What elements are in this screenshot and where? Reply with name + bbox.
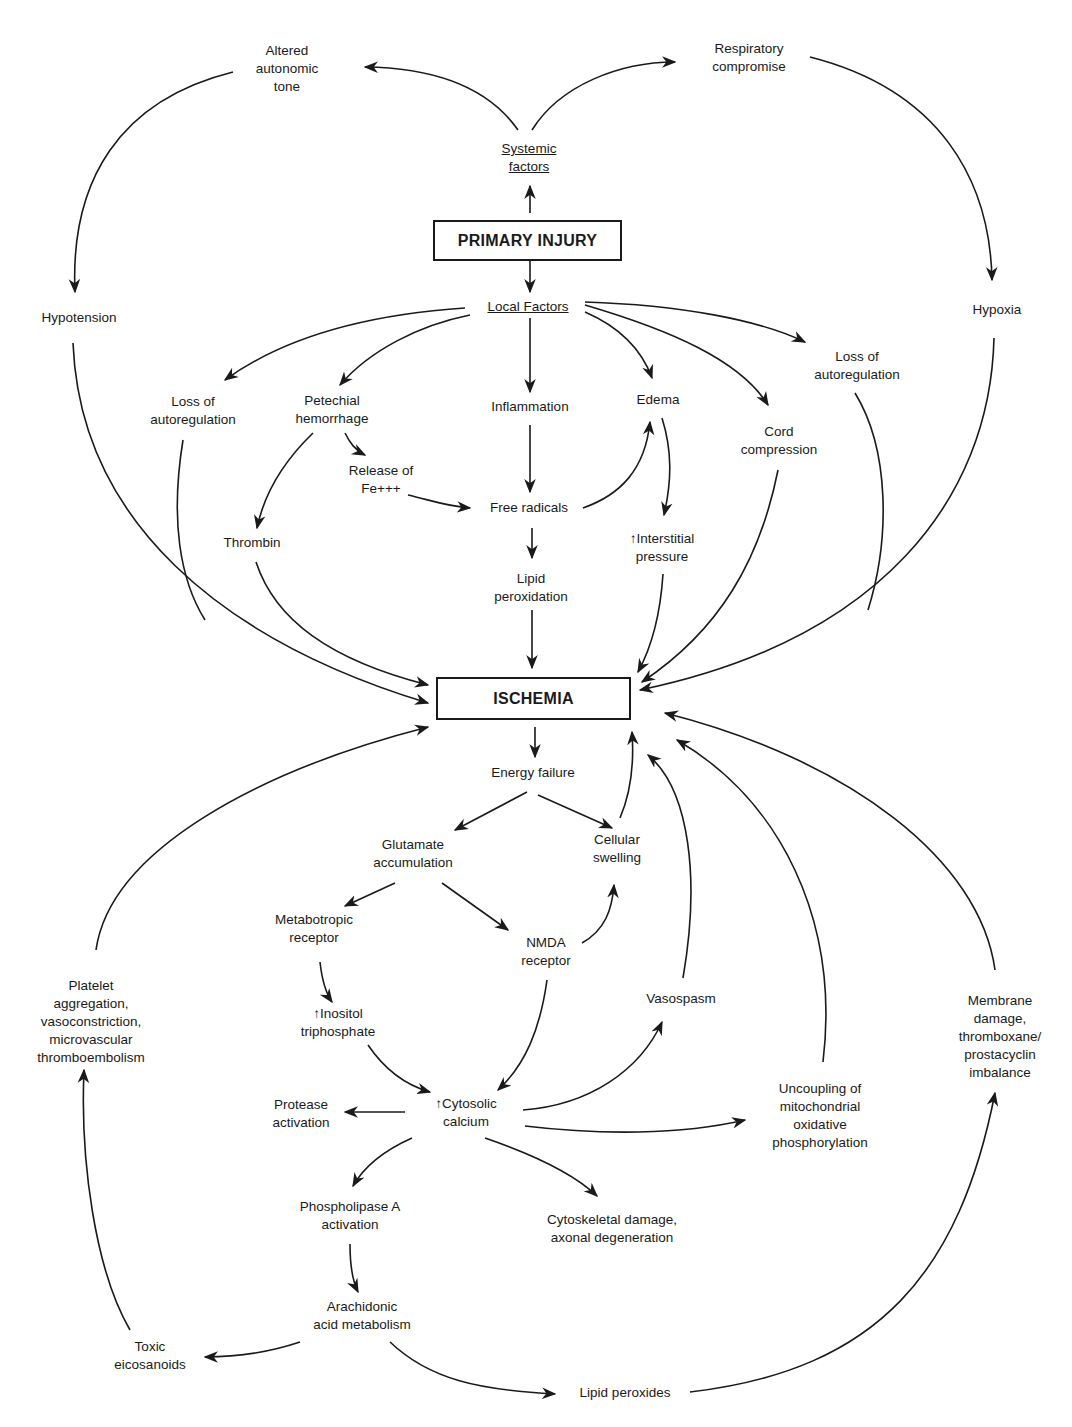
edge-petechial-to-fe (345, 433, 365, 455)
edge-local-to-petechial (340, 315, 470, 385)
node-loss-of-autoregulation-left: Loss ofautoregulation (150, 393, 236, 429)
ischemia-box: ISCHEMIA (436, 677, 631, 720)
node-lipid-peroxides: Lipid peroxides (580, 1384, 671, 1402)
edge-calcium-to-uncoupling (525, 1120, 745, 1132)
node-nmda-receptor: NMDAreceptor (521, 934, 571, 970)
node-inositol-triphosphate: ↑Inositoltriphosphate (301, 1005, 375, 1041)
node-altered-autonomic-tone: Alteredautonomictone (256, 42, 318, 96)
edge-toxic-to-platelet (83, 1070, 130, 1330)
edge-arachidonic-to-toxic (205, 1342, 300, 1357)
node-inflammation: Inflammation (491, 398, 568, 416)
edge-calcium-to-cytoskeletal (485, 1138, 597, 1196)
edge-autonomic-to-hypotension (75, 72, 233, 292)
primary-injury-box: PRIMARY INJURY (433, 220, 622, 261)
edge-thrombin-to-ischemia (256, 562, 428, 685)
edge-lossautoreg-left-to-ischemia (177, 440, 205, 620)
edge-freeradicals-to-edema (583, 422, 650, 508)
edge-inositol-to-calcium (368, 1045, 430, 1092)
node-respiratory-compromise: Respiratorycompromise (712, 40, 786, 76)
edge-calcium-to-phospholipase (353, 1138, 412, 1186)
node-metabotropic-receptor: Metabotropicreceptor (275, 911, 353, 947)
node-local-factors: Local Factors (487, 298, 568, 316)
node-uncoupling: Uncoupling ofmitochondrialoxidativephosp… (772, 1080, 867, 1152)
edge-lossautoreg-right-to-ischemia (855, 393, 883, 610)
edge-nmda-to-swelling (582, 885, 614, 943)
edge-uncoupling-to-ischemia (677, 740, 826, 1062)
edge-swelling-to-ischemia (620, 732, 633, 818)
edge-arachidonic-to-lipidperoxides (390, 1342, 555, 1394)
node-cellular-swelling: Cellularswelling (593, 831, 641, 867)
edge-interstitial-to-ischemia (638, 574, 663, 672)
node-hypoxia: Hypoxia (973, 301, 1022, 319)
edge-systemic-to-respiratory (532, 62, 675, 130)
edge-glutamate-to-nmda (442, 883, 508, 930)
edge-calcium-to-vasospasm (523, 1022, 662, 1110)
edge-systemic-to-autonomic (365, 67, 518, 130)
node-release-of-fe: Release ofFe+++ (349, 462, 414, 498)
node-vasospasm: Vasospasm (646, 990, 716, 1008)
node-edema: Edema (637, 391, 680, 409)
node-systemic-factors: Systemicfactors (502, 140, 557, 176)
edge-membrane-to-ischemia (665, 713, 995, 970)
edge-energy-to-glutamate (455, 792, 527, 830)
node-cytoskeletal-damage: Cytoskeletal damage,axonal degeneration (547, 1211, 677, 1247)
edge-local-to-lossautoreg-left (225, 308, 465, 380)
edge-phospholipase-to-arachidonic (350, 1244, 358, 1292)
edge-local-to-edema (585, 312, 652, 378)
node-platelet-aggregation: Plateletaggregation,vasoconstriction,mic… (37, 977, 144, 1067)
node-petechial-hemorrhage: Petechialhemorrhage (296, 392, 369, 428)
node-thrombin: Thrombin (223, 534, 280, 552)
node-cord-compression: Cordcompression (741, 423, 818, 459)
node-loss-of-autoregulation-right: Loss ofautoregulation (814, 348, 900, 384)
node-free-radicals: Free radicals (490, 499, 568, 517)
edge-metabotropic-to-inositol (320, 962, 332, 1002)
node-hypotension: Hypotension (41, 309, 116, 327)
node-interstitial-pressure: ↑Interstitialpressure (630, 530, 695, 566)
edge-local-to-lossautoreg-right (585, 302, 805, 342)
edge-vasospasm-to-ischemia (648, 755, 691, 978)
node-membrane-damage: Membranedamage,thromboxane/prostacyclini… (959, 992, 1042, 1082)
node-energy-failure: Energy failure (491, 764, 574, 782)
node-toxic-eicosanoids: Toxiceicosanoids (114, 1338, 185, 1374)
edge-hypotension-to-ischemia (73, 343, 428, 703)
node-lipid-peroxidation: Lipidperoxidation (494, 570, 568, 606)
edge-fe-to-freeradicals (408, 495, 470, 508)
node-glutamate-accumulation: Glutamateaccumulation (373, 836, 453, 872)
edge-nmda-to-calcium (498, 980, 547, 1090)
edge-energy-to-swelling (538, 795, 612, 828)
node-protease-activation: Proteaseactivation (272, 1096, 329, 1132)
node-arachidonic-acid: Arachidonicacid metabolism (313, 1298, 411, 1334)
node-cytosolic-calcium: ↑Cytosoliccalcium (435, 1095, 497, 1131)
edge-petechial-to-thrombin (257, 433, 313, 528)
edge-hypoxia-to-ischemia (640, 338, 994, 690)
edge-edema-to-interstitial (662, 418, 670, 515)
node-phospholipase-a: Phospholipase Aactivation (300, 1198, 401, 1234)
edge-respiratory-to-hypoxia (810, 57, 992, 280)
edge-glutamate-to-metabotropic (345, 883, 395, 906)
